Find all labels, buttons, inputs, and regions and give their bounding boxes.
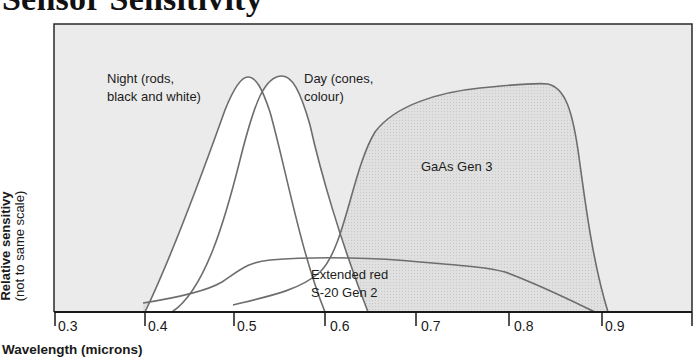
night-label: Night (rods, black and white) <box>107 70 201 106</box>
extended-red-label-line-2: S-20 Gen 2 <box>311 284 388 302</box>
extended-red-label-line-1: Extended red <box>311 266 388 284</box>
x-tick-label: 0.7 <box>421 318 440 334</box>
extended-red-label: Extended red S-20 Gen 2 <box>311 266 388 302</box>
gaas-label: GaAs Gen 3 <box>421 158 493 176</box>
plot-area <box>0 0 695 363</box>
x-tick-label: 0.5 <box>237 318 256 334</box>
x-tick-label: 0.4 <box>148 318 167 334</box>
y-axis-label-sub: (not to same scale) <box>13 171 27 321</box>
day-label: Day (cones, colour) <box>304 70 373 106</box>
x-tick-label: 0.6 <box>330 318 349 334</box>
night-label-line-2: black and white) <box>107 88 201 106</box>
x-tick-label: 0.9 <box>605 318 624 334</box>
x-tick-label: 0.3 <box>58 318 77 334</box>
day-label-line-2: colour) <box>304 88 373 106</box>
day-label-line-1: Day (cones, <box>304 70 373 88</box>
night-label-line-1: Night (rods, <box>107 70 201 88</box>
x-axis-label: Wavelength (microns) <box>2 342 143 357</box>
x-tick-label: 0.8 <box>514 318 533 334</box>
y-axis-label: Relative sensitivy (not to same scale) <box>0 171 27 321</box>
